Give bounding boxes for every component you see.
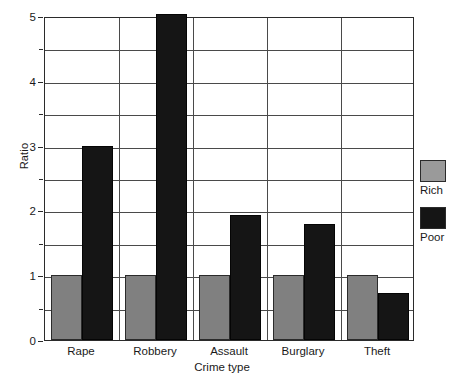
x-tick-label-rape: Rape [44,345,118,357]
y-tickmark-minor [39,309,43,310]
bar-poor-theft [378,293,409,340]
y-tickmark-minor [39,49,43,50]
bar-rich-robbery [125,275,156,340]
y-tickmark-minor [39,114,43,115]
y-tickmark [38,17,43,18]
y-tickmark [38,276,43,277]
legend-label-poor: Poor [420,231,456,243]
y-tick-label: 3 [8,142,36,152]
bar-poor-burglary [304,224,335,340]
x-tick-label-burglary: Burglary [266,345,340,357]
y-tickmark [38,147,43,148]
bar-rich-burglary [273,275,304,340]
y-tick-label: 4 [8,77,36,87]
bar-rich-theft [347,275,378,340]
y-tick-label: 1 [8,271,36,281]
y-tickmark [38,82,43,83]
legend-item-poor: Poor [420,207,456,243]
x-tick-label-assault: Assault [192,345,266,357]
y-tick-label: 0 [8,336,36,346]
bar-poor-robbery [156,14,187,340]
plot-area [44,17,414,341]
x-tick-label-robbery: Robbery [118,345,192,357]
y-tick-label: 5 [8,12,36,22]
y-tickmark-minor [39,179,43,180]
x-tick-label-theft: Theft [340,345,414,357]
bar-rich-assault [199,275,230,340]
y-tickmark-minor [39,244,43,245]
y-tick-label: 2 [8,206,36,216]
rich-swatch-icon [420,160,446,182]
bars-layer [45,18,413,340]
y-tickmark [38,341,43,342]
legend-item-rich: Rich [420,160,456,196]
y-axis-tick-labels: 012345 [6,0,36,384]
y-tickmark [38,211,43,212]
bar-poor-rape [82,146,113,340]
poor-swatch-icon [420,207,446,229]
bar-chart: Ratio 012345 RapeRobberyAssaultBurglaryT… [0,0,456,384]
legend-label-rich: Rich [420,184,456,196]
bar-rich-rape [51,275,82,340]
bar-poor-assault [230,215,261,340]
chart-legend: Rich Poor [420,160,456,254]
x-axis-title: Crime type [0,361,450,373]
